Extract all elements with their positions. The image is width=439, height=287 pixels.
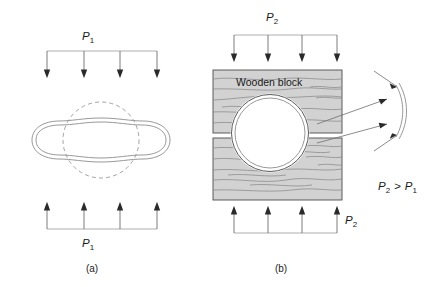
- relation-operator: >: [394, 180, 401, 192]
- panel-a: P1: [32, 30, 170, 274]
- detail-load-arrow-upper: [374, 71, 397, 89]
- cylinder-inner-wall: [235, 98, 305, 168]
- panel-b-top-pressure-label: P2: [266, 11, 279, 26]
- panel-b-bottom-pressure-subscript: 2: [353, 220, 358, 229]
- figure-container: P1: [0, 0, 439, 287]
- panel-a-bottom-pressure-subscript: 1: [90, 243, 95, 252]
- pressure-relation: P2>P1: [378, 180, 418, 195]
- panel-b-bottom-pressure-label: P2: [345, 214, 358, 229]
- panel-b-bottom-arrows: [231, 206, 340, 233]
- panel-a-tube-outer-wall: [32, 118, 170, 162]
- panel-b-top-arrows: [231, 35, 340, 62]
- relation-right-subscript: 1: [413, 186, 418, 195]
- panel-a-caption: (a): [86, 263, 98, 274]
- panel-a-bottom-arrows: [44, 202, 160, 229]
- wooden-block-label: Wooden block: [236, 76, 303, 88]
- panel-b: P2: [213, 11, 407, 274]
- panel-b-caption: (b): [275, 263, 287, 274]
- panel-a-undeformed-circle: [63, 102, 139, 178]
- panel-b-top-pressure-subscript: 2: [274, 17, 279, 26]
- panel-a-top-arrows: [44, 51, 160, 78]
- panel-a-top-pressure-label: P1: [82, 30, 95, 45]
- detail-arc-inner: [396, 85, 403, 137]
- diagram-canvas: P1: [0, 0, 439, 287]
- panel-a-top-pressure-subscript: 1: [90, 36, 95, 45]
- panel-a-tube-inner-wall: [36, 122, 166, 158]
- relation-left-subscript: 2: [386, 186, 391, 195]
- panel-a-bottom-pressure-label: P1: [82, 237, 95, 252]
- detail-load-arrow-lower: [374, 133, 397, 151]
